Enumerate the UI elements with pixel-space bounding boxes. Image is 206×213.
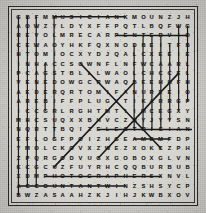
grid-cell[interactable]: H [77, 191, 85, 200]
grid-cell[interactable]: P [175, 144, 183, 153]
grid-cell[interactable]: G [175, 97, 183, 106]
grid-cell[interactable]: N [59, 181, 67, 190]
grid-cell[interactable]: Q [130, 162, 138, 171]
grid-cell[interactable]: R [94, 78, 102, 87]
grid-cell[interactable]: U [77, 162, 85, 171]
grid-cell[interactable]: N [94, 59, 102, 68]
grid-cell[interactable]: T [59, 68, 67, 77]
grid-cell[interactable]: O [68, 144, 76, 153]
grid-cell[interactable]: N [183, 153, 191, 162]
grid-cell[interactable]: Q [23, 125, 31, 134]
grid-cell[interactable]: A [14, 87, 22, 96]
grid-cell[interactable]: I [50, 97, 58, 106]
grid-cell[interactable]: H [157, 78, 165, 87]
grid-cell[interactable]: B [183, 40, 191, 49]
grid-cell[interactable]: S [148, 172, 156, 181]
grid-cell[interactable]: A [41, 191, 49, 200]
grid-cell[interactable]: I [148, 125, 156, 134]
grid-cell[interactable]: U [50, 181, 58, 190]
grid-cell[interactable]: B [41, 97, 49, 106]
grid-cell[interactable]: G [183, 21, 191, 30]
grid-cell[interactable]: H [32, 59, 40, 68]
grid-cell[interactable]: M [50, 12, 58, 21]
grid-cell[interactable]: L [112, 59, 120, 68]
grid-cell[interactable]: O [59, 153, 67, 162]
grid-cell[interactable]: C [50, 144, 58, 153]
grid-cell[interactable]: L [183, 59, 191, 68]
grid-cell[interactable]: Q [32, 153, 40, 162]
grid-cell[interactable]: V [14, 78, 22, 87]
grid-cell[interactable]: F [59, 134, 67, 143]
grid-cell[interactable]: G [112, 134, 120, 143]
grid-cell[interactable]: Z [59, 162, 67, 171]
grid-cell[interactable]: T [94, 181, 102, 190]
grid-cell[interactable]: C [112, 162, 120, 171]
grid-cell[interactable]: Y [139, 115, 147, 124]
grid-cell[interactable]: D [23, 172, 31, 181]
grid-cell[interactable]: L [86, 97, 94, 106]
grid-cell[interactable]: C [112, 115, 120, 124]
grid-cell[interactable]: N [130, 87, 138, 96]
grid-cell[interactable]: O [41, 31, 49, 40]
grid-cell[interactable]: R [166, 97, 174, 106]
grid-cell[interactable]: M [14, 115, 22, 124]
grid-cell[interactable]: I [157, 40, 165, 49]
grid-cell[interactable]: V [166, 31, 174, 40]
grid-cell[interactable]: Z [41, 21, 49, 30]
grid-cell[interactable]: M [157, 134, 165, 143]
grid-cell[interactable]: O [41, 134, 49, 143]
grid-cell[interactable]: H [148, 181, 156, 190]
grid-cell[interactable]: A [94, 31, 102, 40]
grid-cell[interactable]: Q [121, 78, 129, 87]
grid-cell[interactable]: E [139, 78, 147, 87]
grid-cell[interactable]: W [103, 68, 111, 77]
grid-cell[interactable]: I [77, 125, 85, 134]
grid-cell[interactable]: T [68, 181, 76, 190]
grid-cell[interactable]: V [77, 144, 85, 153]
grid-cell[interactable]: R [157, 97, 165, 106]
grid-cell[interactable]: H [68, 40, 76, 49]
grid-cell[interactable]: F [59, 97, 67, 106]
grid-cell[interactable]: R [68, 31, 76, 40]
grid-cell[interactable]: I [77, 12, 85, 21]
grid-cell[interactable]: I [103, 87, 111, 96]
grid-cell[interactable]: P [41, 172, 49, 181]
grid-cell[interactable]: M [94, 87, 102, 96]
grid-cell[interactable]: V [32, 31, 40, 40]
grid-cell[interactable]: G [14, 12, 22, 21]
grid-cell[interactable]: P [183, 134, 191, 143]
grid-cell[interactable]: C [157, 125, 165, 134]
grid-cell[interactable]: C [148, 106, 156, 115]
grid-cell[interactable]: C [23, 162, 31, 171]
grid-cell[interactable]: T [112, 106, 120, 115]
grid-cell[interactable]: A [41, 59, 49, 68]
grid-cell[interactable]: Y [166, 115, 174, 124]
grid-cell[interactable]: R [50, 106, 58, 115]
grid-cell[interactable]: C [68, 50, 76, 59]
grid-cell[interactable]: R [148, 87, 156, 96]
grid-cell[interactable]: W [139, 59, 147, 68]
grid-cell[interactable]: I [166, 125, 174, 134]
grid-cell[interactable]: U [175, 162, 183, 171]
grid-cell[interactable]: A [121, 50, 129, 59]
grid-cell[interactable]: F [166, 134, 174, 143]
grid-cell[interactable]: O [59, 172, 67, 181]
grid-cell[interactable]: L [32, 134, 40, 143]
grid-cell[interactable]: C [32, 106, 40, 115]
grid-cell[interactable]: C [148, 59, 156, 68]
grid-cell[interactable]: T [68, 172, 76, 181]
grid-cell[interactable]: A [32, 68, 40, 77]
grid-cell[interactable]: K [148, 144, 156, 153]
grid-cell[interactable]: U [148, 162, 156, 171]
grid-cell[interactable]: A [112, 78, 120, 87]
grid-cell[interactable]: L [166, 153, 174, 162]
grid-cell[interactable]: O [139, 153, 147, 162]
grid-cell[interactable]: E [148, 134, 156, 143]
grid-cell[interactable]: I [94, 12, 102, 21]
grid-cell[interactable]: W [32, 40, 40, 49]
grid-cell[interactable]: R [139, 172, 147, 181]
grid-cell[interactable]: N [166, 172, 174, 181]
grid-cell[interactable]: N [130, 31, 138, 40]
grid-cell[interactable]: Q [121, 162, 129, 171]
grid-cell[interactable]: E [112, 125, 120, 134]
